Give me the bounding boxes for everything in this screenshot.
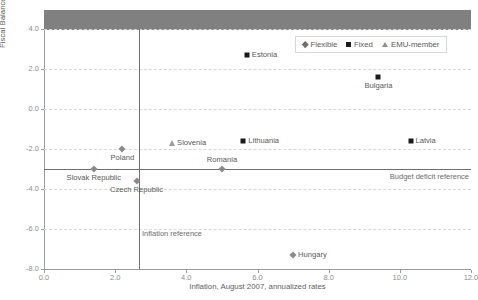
x-tick-mark: [186, 270, 187, 273]
x-tick-label: 0.0: [39, 273, 49, 282]
gridline: [44, 69, 471, 70]
plot-area: 4.02.00.0-2.0-4.0-6.0-8.0 0.02.04.06.08.…: [44, 29, 471, 270]
square-marker-icon: [376, 75, 381, 80]
data-point-label: Slovenia: [177, 138, 206, 147]
x-tick-mark: [258, 270, 259, 273]
data-point-label: Lithuania: [248, 136, 279, 145]
y-tick-mark: [41, 69, 44, 70]
square-marker-icon: [244, 53, 249, 58]
chart-legend: FlexibleFixedEMU-member: [295, 36, 447, 53]
chart-title: [150, 0, 471, 9]
inflation-reference-line: [139, 29, 140, 269]
legend-item-label: EMU-member: [391, 40, 440, 49]
data-point-label: Latvia: [416, 136, 436, 145]
y-tick-mark: [41, 189, 44, 190]
y-tick-label: -6.0: [0, 224, 39, 233]
diamond-marker-icon: [302, 41, 308, 47]
x-tick-mark: [44, 270, 45, 273]
diamond-marker-icon: [119, 145, 126, 152]
y-tick-mark: [41, 149, 44, 150]
square-marker-icon: [408, 139, 413, 144]
diamond-marker-icon: [90, 165, 97, 172]
budget-deficit-reference-line: [44, 169, 471, 170]
legend-item[interactable]: Fixed: [346, 40, 373, 49]
gridline: [44, 29, 471, 30]
x-tick-mark: [329, 270, 330, 273]
square-marker-icon: [241, 139, 246, 144]
legend-item-label: Fixed: [354, 40, 373, 49]
inflation-reference-label: Inflation reference: [142, 229, 202, 238]
gridline: [44, 189, 471, 190]
x-tick-label: 4.0: [181, 273, 191, 282]
data-point-label: Poland: [110, 153, 134, 162]
y-tick-label: 0.0: [0, 104, 39, 113]
x-tick-label: 12.0: [464, 273, 478, 282]
header-band: [44, 10, 471, 30]
x-tick-label: 2.0: [110, 273, 120, 282]
x-axis-title: Inflation, August 2007, annualized rates: [44, 282, 471, 291]
x-tick-mark: [471, 270, 472, 273]
y-tick-mark: [41, 29, 44, 30]
x-tick-label: 8.0: [323, 273, 333, 282]
legend-item[interactable]: EMU-member: [382, 40, 440, 49]
data-point-label: Estonia: [252, 50, 277, 59]
data-point-label: Bulgaria: [365, 81, 393, 90]
y-tick-label: -8.0: [0, 264, 39, 273]
triangle-marker-icon: [169, 140, 175, 146]
gridline: [44, 109, 471, 110]
legend-item[interactable]: Flexible: [303, 40, 337, 49]
data-point-label: Hungary: [298, 250, 327, 259]
square-marker-icon: [346, 42, 351, 47]
y-tick-mark: [41, 229, 44, 230]
legend-item-label: Flexible: [311, 40, 338, 49]
x-tick-label: 10.0: [393, 273, 408, 282]
budget-deficit-reference-label: Budget deficit reference: [390, 172, 469, 181]
gridline: [44, 149, 471, 150]
y-tick-label: 2.0: [0, 64, 39, 73]
diamond-marker-icon: [290, 251, 297, 258]
data-point-label: Slovak Republic: [67, 173, 121, 182]
y-tick-label: -4.0: [0, 184, 39, 193]
diamond-marker-icon: [218, 165, 225, 172]
y-tick-mark: [41, 109, 44, 110]
triangle-marker-icon: [382, 42, 388, 47]
gridline: [44, 229, 471, 230]
data-point-label: Romania: [207, 155, 237, 164]
y-tick-label: -2.0: [0, 144, 39, 153]
x-tick-mark: [400, 270, 401, 273]
x-tick-label: 6.0: [252, 273, 262, 282]
y-tick-label: 4.0: [0, 24, 39, 33]
y-axis-title: Fiscal Balance (percentage of GDP), 2007: [0, 34, 7, 48]
data-point-label: Czech Republic: [110, 185, 163, 194]
x-tick-mark: [115, 270, 116, 273]
